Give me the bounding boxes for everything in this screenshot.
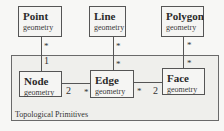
class-name: Node xyxy=(24,75,61,87)
class-attribute: geometry xyxy=(167,84,204,96)
class-attribute: geometry xyxy=(94,22,125,34)
package-label: Topological Primitives xyxy=(15,110,88,120)
class-name: Line xyxy=(94,10,125,22)
multiplicity-label: * xyxy=(116,41,121,51)
face-class-box: Face geometry xyxy=(162,68,205,95)
class-attribute: geometry xyxy=(24,87,61,99)
class-name: Polygon xyxy=(166,10,203,22)
multiplicity-label: * xyxy=(137,86,142,96)
multiplicity-label: * xyxy=(44,41,49,51)
node-class-box: Node geometry xyxy=(19,71,62,97)
multiplicity-label: * xyxy=(116,59,121,69)
point-node-connector xyxy=(41,37,42,71)
edge-class-box: Edge geometry xyxy=(90,70,134,98)
multiplicity-label: 2 xyxy=(66,86,71,96)
line-class-box: Line geometry xyxy=(89,6,126,37)
class-name: Point xyxy=(23,10,61,22)
multiplicity-label: * xyxy=(187,58,192,68)
multiplicity-label: 1 xyxy=(44,56,49,66)
multiplicity-label: * xyxy=(84,87,89,97)
class-attribute: geometry xyxy=(166,22,203,34)
line-edge-connector xyxy=(113,37,114,70)
class-name: Face xyxy=(167,72,204,84)
polygon-face-connector xyxy=(183,37,184,68)
multiplicity-label: 2 xyxy=(153,86,158,96)
node-edge-connector xyxy=(62,83,90,84)
edge-face-connector xyxy=(134,82,162,83)
class-name: Edge xyxy=(95,74,133,86)
class-attribute: geometry xyxy=(23,22,61,34)
point-class-box: Point geometry xyxy=(18,6,62,37)
multiplicity-label: * xyxy=(187,40,192,50)
class-attribute: geometry xyxy=(95,86,133,98)
polygon-class-box: Polygon geometry xyxy=(161,6,204,37)
